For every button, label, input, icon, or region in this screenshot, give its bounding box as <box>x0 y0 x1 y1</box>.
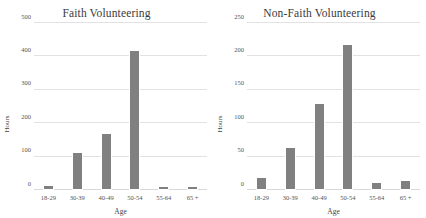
bar-slot <box>391 23 420 190</box>
y-axis-title-left: Hours <box>0 23 13 218</box>
y-axis-tick-label: 400 <box>21 47 31 54</box>
bar-slot <box>63 23 92 190</box>
bar-65- <box>400 180 411 190</box>
y-axis-tick-label: 200 <box>21 113 31 120</box>
y-axis-title-right-text: Hours <box>216 116 224 133</box>
x-axis-tick-label: 30-39 <box>276 192 305 204</box>
y-axis-ticks-left: 0100200300400500 <box>13 23 34 218</box>
x-axis-ticks-left: 18-2930-3940-4950-5455-6465 + <box>34 192 207 204</box>
y-axis-ticks-right: 050100150200250 <box>226 23 247 218</box>
bar-40-49 <box>101 133 112 190</box>
bar-slot <box>362 23 391 190</box>
bar-slot <box>149 23 178 190</box>
x-axis-ticks-right: 18-2930-3940-4950-5455-6465 + <box>247 192 420 204</box>
x-axis-title-right: Age <box>247 205 420 218</box>
x-axis-tick-label: 50-54 <box>333 192 362 204</box>
y-axis-tick-label: 300 <box>21 80 31 87</box>
bar-18-29 <box>256 177 267 190</box>
y-axis-tick-label: 150 <box>234 80 244 87</box>
x-axis-tick-label: 40-49 <box>92 192 121 204</box>
bar-slot <box>305 23 334 190</box>
y-axis-tick-label: 250 <box>234 13 244 20</box>
x-axis-tick-label: 65 + <box>391 192 420 204</box>
x-axis-tick-label: 18-29 <box>247 192 276 204</box>
y-axis-tick-label: 0 <box>241 180 244 187</box>
y-axis-tick-label: 200 <box>234 47 244 54</box>
bar-50-54 <box>342 44 353 190</box>
y-axis-tick-label: 0 <box>28 180 31 187</box>
bar-65- <box>187 186 198 190</box>
bar-slot <box>92 23 121 190</box>
x-axis-tick-label: 18-29 <box>34 192 63 204</box>
y-axis-tick-label: 100 <box>234 113 244 120</box>
x-axis-tick-label: 65 + <box>178 192 207 204</box>
bar-slot <box>247 23 276 190</box>
bar-40-49 <box>314 103 325 191</box>
bar-slot <box>34 23 63 190</box>
plot-area-right: Hours 050100150200250 18-2930-3940-4950-… <box>213 23 426 218</box>
bar-chart-figure: Faith Volunteering Hours 010020030040050… <box>0 0 426 218</box>
bar-30-39 <box>285 147 296 190</box>
y-axis-title-left-text: Hours <box>3 116 11 133</box>
bars-container-left <box>34 23 207 190</box>
x-axis-tick-label: 40-49 <box>305 192 334 204</box>
plot-canvas-right: 18-2930-3940-4950-5455-6465 + Age <box>247 23 420 218</box>
bar-55-64 <box>158 186 169 190</box>
bar-55-64 <box>371 182 382 190</box>
bar-slot <box>178 23 207 190</box>
x-axis-title-left: Age <box>34 205 207 218</box>
chart-title-right: Non-Faith Volunteering <box>213 6 426 21</box>
x-axis-tick-label: 55-64 <box>149 192 178 204</box>
chart-title-left: Faith Volunteering <box>0 6 213 21</box>
y-axis-tick-label: 50 <box>238 147 245 154</box>
bar-50-54 <box>129 50 140 190</box>
y-axis-title-right: Hours <box>213 23 226 218</box>
bar-slot <box>333 23 362 190</box>
y-axis-tick-label: 100 <box>21 147 31 154</box>
x-axis-tick-label: 50-54 <box>120 192 149 204</box>
bar-slot <box>120 23 149 190</box>
bar-30-39 <box>72 152 83 190</box>
y-axis-tick-label: 500 <box>21 13 31 20</box>
bar-slot <box>276 23 305 190</box>
bars-container-right <box>247 23 420 190</box>
bar-18-29 <box>43 185 54 190</box>
chart-panel-non-faith-volunteering: Non-Faith Volunteering Hours 05010015020… <box>213 0 426 218</box>
plot-area-left: Hours 0100200300400500 18-2930-3940-4950… <box>0 23 213 218</box>
x-axis-tick-label: 30-39 <box>63 192 92 204</box>
chart-panel-faith-volunteering: Faith Volunteering Hours 010020030040050… <box>0 0 213 218</box>
plot-canvas-left: 18-2930-3940-4950-5455-6465 + Age <box>34 23 207 218</box>
x-axis-tick-label: 55-64 <box>362 192 391 204</box>
